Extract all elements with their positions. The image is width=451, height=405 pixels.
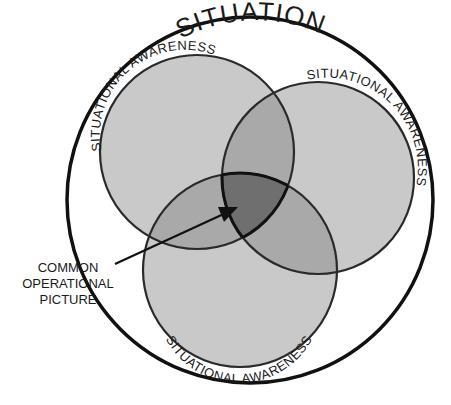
callout-line-1: COMMON <box>38 260 99 275</box>
callout-line-2: OPERATIONAL <box>22 276 114 291</box>
callout-line-3: PICTURE <box>39 292 96 307</box>
callout-label: COMMON OPERATIONAL PICTURE <box>22 260 114 307</box>
venn-diagram: SITUATION SITUATIONAL AWARENESS SITUATIO… <box>0 0 451 405</box>
situation-label: SITUATION <box>171 0 331 44</box>
